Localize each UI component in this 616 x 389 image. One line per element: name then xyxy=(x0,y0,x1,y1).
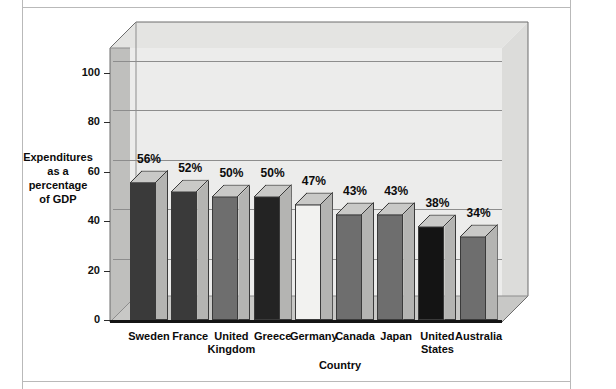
x-axis-category-label: Australia xyxy=(449,330,509,343)
y-axis-tick xyxy=(104,73,110,74)
bar-value-label: 50% xyxy=(251,166,295,180)
x-axis-line xyxy=(110,320,502,323)
chart-page: 020406080100 56%52%50%50%47%43%43%38%34%… xyxy=(0,0,616,389)
bar-side-face xyxy=(280,184,292,320)
y-axis-tick xyxy=(104,271,110,272)
y-axis-tick-label: 100 xyxy=(60,66,100,78)
bar-top-outline xyxy=(212,184,250,197)
bar-value-label: 43% xyxy=(333,184,377,198)
bar-front-face xyxy=(336,214,362,320)
bar-top-outline xyxy=(460,224,498,237)
bar-front-face xyxy=(130,182,156,320)
bar-front-face xyxy=(212,196,238,320)
bar-chart: 020406080100 56%52%50%50%47%43%43%38%34%… xyxy=(0,0,616,389)
bar-top-outline xyxy=(418,214,456,227)
chart-box-top-panel xyxy=(110,22,529,48)
chart-box-right-panel xyxy=(502,22,528,322)
bar-column[interactable] xyxy=(212,184,250,320)
gridline xyxy=(113,61,502,62)
gridline xyxy=(113,110,502,111)
y-axis-title: Expenditures as a percentage of GDP xyxy=(8,150,108,206)
y-axis-tick-label: 40 xyxy=(60,214,100,226)
bar-front-face xyxy=(418,226,444,320)
bar-side-face xyxy=(486,224,498,320)
bar-top-outline xyxy=(130,170,168,183)
y-axis-tick-label: 80 xyxy=(60,115,100,127)
bar-value-label: 43% xyxy=(374,184,418,198)
bar-column[interactable] xyxy=(130,170,168,320)
bar-side-face xyxy=(197,179,209,320)
bar-side-face xyxy=(444,214,456,320)
bar-side-face xyxy=(403,202,415,320)
bar-value-label: 47% xyxy=(292,174,336,188)
y-axis-tick xyxy=(104,122,110,123)
bar-column[interactable] xyxy=(295,192,333,320)
bar-value-label: 50% xyxy=(209,166,253,180)
y-axis-tick-label: 20 xyxy=(60,264,100,276)
bar-value-label: 38% xyxy=(415,196,459,210)
bar-top-outline xyxy=(336,202,374,215)
bar-side-face xyxy=(156,170,168,320)
y-axis-tick xyxy=(104,221,110,222)
bar-column[interactable] xyxy=(377,202,415,320)
bar-front-face xyxy=(171,191,197,320)
bar-front-face xyxy=(254,196,280,320)
bar-column[interactable] xyxy=(418,214,456,320)
bar-front-face xyxy=(377,214,403,320)
bar-value-label: 34% xyxy=(457,206,501,220)
bar-front-face xyxy=(295,204,321,320)
bar-top-outline xyxy=(171,179,209,192)
bar-column[interactable] xyxy=(460,224,498,320)
bar-side-face xyxy=(321,192,333,320)
y-axis-tick-label: 0 xyxy=(60,313,100,325)
bar-side-face xyxy=(362,202,374,320)
plot-area-left-wall xyxy=(110,48,130,322)
bar-top-outline xyxy=(254,184,292,197)
bar-top-outline xyxy=(295,192,333,205)
bar-side-face xyxy=(238,184,250,320)
bar-column[interactable] xyxy=(171,179,209,320)
x-axis-title: Country xyxy=(300,359,380,371)
bar-top-outline xyxy=(377,202,415,215)
bar-front-face xyxy=(460,236,486,320)
bar-value-label: 52% xyxy=(168,161,212,175)
bar-column[interactable] xyxy=(336,202,374,320)
bar-column[interactable] xyxy=(254,184,292,320)
bar-value-label: 56% xyxy=(127,152,171,166)
